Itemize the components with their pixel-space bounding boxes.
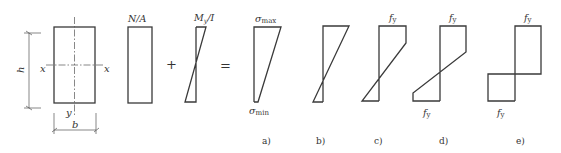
plus-operator: + <box>166 57 177 72</box>
panel-c-stress-shape <box>362 26 406 101</box>
panel-a-elastic: σmax σmin a) <box>249 13 281 146</box>
panel-b-stress-shape <box>313 26 349 102</box>
bending-stress-shape <box>185 27 206 102</box>
equals-operator: = <box>220 58 231 73</box>
panel-b: b) <box>313 26 349 146</box>
panel-e-fy-top: fy <box>523 12 532 24</box>
panel-a-caption: a) <box>262 136 271 146</box>
panel-d-caption: d) <box>439 136 448 146</box>
panel-e-plastic: fy fy e) <box>488 12 541 146</box>
sigma-max-label: σmax <box>255 13 276 25</box>
sigma-min-label: σmin <box>249 105 269 117</box>
height-label: h <box>15 67 26 73</box>
axial-stress-label: N/A <box>127 13 147 24</box>
width-label: b <box>72 119 78 130</box>
panel-e-caption: e) <box>516 136 525 146</box>
stress-distribution-diagram: x x y h b N/A + My/I = σmax σmin a) <box>0 0 561 153</box>
y-axis-label: y <box>65 107 72 118</box>
x-axis-label-right: x <box>104 63 110 74</box>
panel-d-fy-bottom: fy <box>422 107 431 119</box>
panel-c: fy c) <box>362 12 406 146</box>
axial-stress-block: N/A <box>127 13 152 103</box>
panel-e-stress-shape <box>488 26 541 101</box>
panel-b-caption: b) <box>316 136 325 146</box>
panel-d-stress-shape <box>413 26 466 101</box>
bending-stress-label: My/I <box>193 12 215 25</box>
panel-e-fy-bottom: fy <box>496 107 505 119</box>
panel-d: fy fy d) <box>413 12 466 146</box>
panel-a-stress-shape <box>254 27 281 102</box>
panel-c-caption: c) <box>374 136 383 146</box>
panel-d-fy-top: fy <box>448 12 457 24</box>
bending-stress-block: My/I <box>185 12 215 102</box>
axial-stress-rectangle <box>128 27 152 103</box>
x-axis-label-left: x <box>40 63 46 74</box>
cross-section: x x y h b <box>15 17 110 134</box>
panel-c-fy-top: fy <box>388 12 397 24</box>
